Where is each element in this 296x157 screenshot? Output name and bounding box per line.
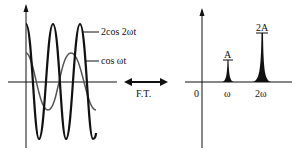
peak-w [222, 60, 234, 82]
peak-2w-x-label: 2ω [255, 88, 267, 99]
peak-2w-height-label: 2A [256, 22, 269, 33]
origin-label: 0 [194, 88, 199, 99]
ft-label: F.T. [136, 88, 151, 99]
label-2cos-2wt: 2cos 2ωt [101, 26, 136, 37]
arrow-left-icon [124, 78, 132, 86]
arrow-right-icon [160, 78, 168, 86]
frequency-domain-plot: 0 A 2ω ω 2A 2ω [185, 8, 292, 148]
peak-w-x-label-text: ω [224, 88, 231, 99]
time-domain-plot: 2cos 2ωt cos ωt [8, 4, 136, 148]
label-cos-wt: cos ωt [101, 55, 126, 66]
fourier-transform-arrow: F.T. [124, 78, 168, 99]
freq-y-axis-arrow-icon [200, 8, 205, 16]
time-y-axis-arrow-icon [24, 4, 29, 12]
peak-2w [253, 33, 271, 82]
peak-w-height-label: A [224, 49, 232, 60]
fourier-transform-diagram: 2cos 2ωt cos ωt F.T. 0 A 2ω ω 2A 2ω [0, 0, 296, 157]
